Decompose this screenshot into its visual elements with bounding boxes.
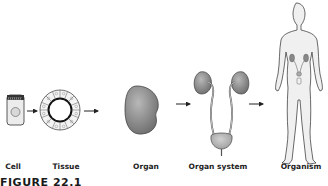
tissue-illustration [40, 90, 80, 130]
human-body-illustration [276, 3, 323, 164]
figure-caption: FIGURE 22.1 [0, 176, 82, 186]
cell-illustration [7, 95, 24, 125]
stage-label-cell: Cell [5, 162, 21, 171]
levels-of-organization-diagram: Cell Tissue Organ Organ system Organism … [0, 0, 328, 186]
stage-label-organ: Organ [133, 162, 159, 171]
stage-label-organ-system: Organ system [189, 162, 248, 171]
urinary-system-illustration [194, 72, 249, 156]
diagram-graphics [0, 0, 328, 186]
stage-label-organism: Organism [281, 162, 322, 171]
kidney-organ-illustration [125, 86, 158, 134]
stage-label-tissue: Tissue [52, 162, 79, 171]
